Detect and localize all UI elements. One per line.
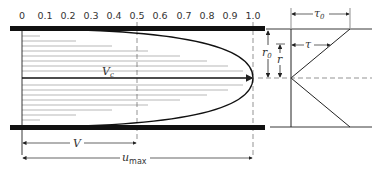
pipe-flow-diagram: 0 0.1 0.2 0.3 0.4 0.5 0.6 0.7 0.8 0.9 1.… [0,0,372,170]
tick-0-6: 0.6 [152,10,167,21]
radius-label: r [277,53,283,66]
tick-0: 0 [19,10,25,21]
tick-1-0: 1.0 [245,10,260,21]
pipe-wall-bottom [10,125,265,130]
tick-0-9: 0.9 [222,10,237,21]
shear-label: τ [305,38,312,51]
tick-0-4: 0.4 [106,10,121,21]
centerline-velocity-label: Vc [102,65,114,79]
tick-0-1: 0.1 [37,10,52,21]
tick-0-3: 0.3 [83,10,98,21]
tick-0-2: 0.2 [60,10,75,21]
mean-velocity-label: V [73,137,82,150]
pipe-wall-top [10,26,265,31]
tick-0-5: 0.5 [129,10,144,21]
tick-0-7: 0.7 [176,10,191,21]
velocity-scale: 0 0.1 0.2 0.3 0.4 0.5 0.6 0.7 0.8 0.9 1.… [19,10,261,21]
tick-0-8: 0.8 [199,10,214,21]
shear-stress-diagram [258,8,372,127]
